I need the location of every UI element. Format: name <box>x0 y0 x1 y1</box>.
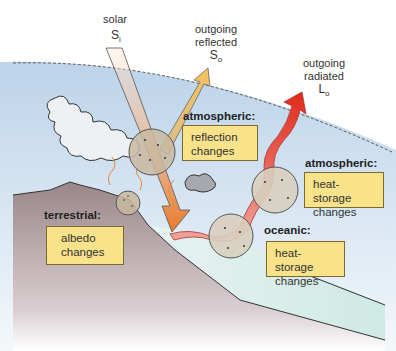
oceanic-heat-box: heat-storage changes <box>266 241 345 277</box>
solar-symbol-text: S <box>111 28 119 42</box>
radiated-symbol: Lo <box>296 83 352 100</box>
box-line: changes <box>191 144 249 158</box>
box-line: changes <box>61 245 115 259</box>
feedback-circle-reflection <box>129 129 175 175</box>
feedback-circle-terrestrial <box>116 191 140 215</box>
atmospheric-heat-box: heat-storage changes <box>304 172 384 208</box>
box-line: heat-storage <box>313 177 375 205</box>
solar-subscript: i <box>119 35 121 44</box>
atmospheric-heat-header: atmospheric: <box>305 157 377 169</box>
radiated-line1: outgoing <box>296 57 352 70</box>
box-line: reflection <box>191 130 249 144</box>
reflected-symbol-text: S <box>210 48 218 62</box>
box-line: heat-storage <box>275 246 336 274</box>
terrestrial-header: terrestrial: <box>44 209 101 221</box>
reflected-subscript: o <box>218 55 222 64</box>
atmospheric-reflection-box: reflection changes <box>182 125 258 161</box>
feedback-circle-atmospheric-heat <box>252 167 298 213</box>
outgoing-radiated-label: outgoing radiated Lo <box>296 57 352 100</box>
terrestrial-albedo-box: albedo changes <box>46 226 124 265</box>
feedback-circle-oceanic <box>209 214 253 258</box>
climate-diagram: solar Si outgoing reflected So outgoing … <box>0 0 396 351</box>
solar-text: solar <box>103 13 127 25</box>
reflected-symbol: So <box>186 49 246 66</box>
box-line: changes <box>313 205 375 219</box>
reflected-line1: outgoing <box>186 23 246 36</box>
atmospheric-reflection-header: atmospheric: <box>183 110 255 122</box>
radiated-subscript: o <box>325 89 329 98</box>
oceanic-header: oceanic: <box>264 224 311 236</box>
solar-label: solar <box>100 13 130 26</box>
solar-symbol: Si <box>106 29 126 46</box>
box-line: albedo <box>61 231 115 245</box>
outgoing-reflected-label: outgoing reflected So <box>186 23 246 66</box>
box-line: changes <box>275 274 336 288</box>
